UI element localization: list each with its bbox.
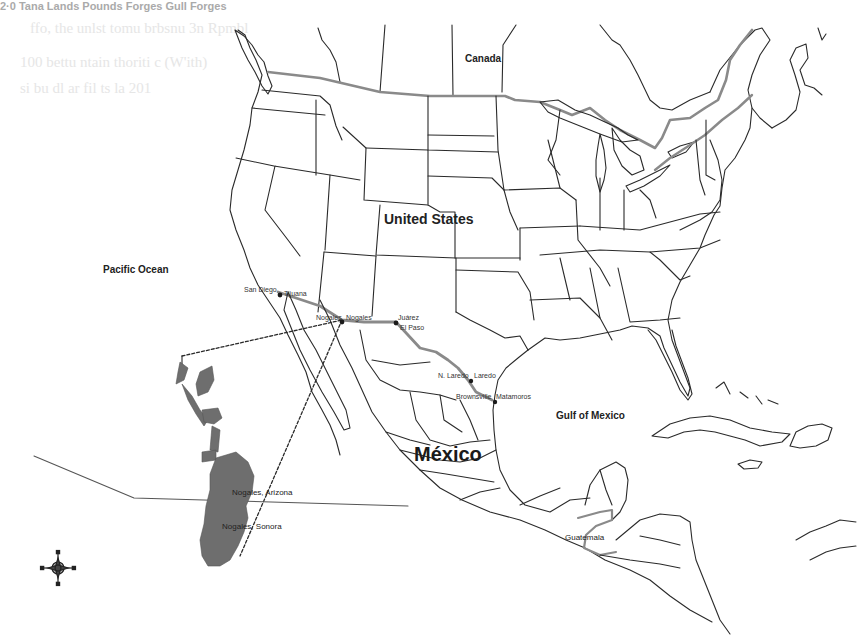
juarez-marker	[394, 321, 399, 326]
jamaica	[738, 460, 762, 469]
label-nogales-sonora: Nogales, Sonora	[222, 522, 282, 531]
texas-border	[456, 312, 528, 350]
lake-erie	[626, 165, 670, 192]
newfoundland	[818, 28, 826, 40]
san-diego-marker	[278, 293, 283, 298]
label-mexico: México	[414, 443, 482, 466]
label-el-paso: El Paso	[400, 324, 424, 331]
hispaniola	[790, 424, 832, 448]
canada-line-3	[502, 25, 516, 92]
label-juarez: Juárez	[398, 314, 419, 321]
baja-california	[284, 292, 350, 430]
label-canada: Canada	[465, 53, 501, 64]
matamoros-marker	[493, 400, 497, 404]
laredo-marker	[469, 379, 473, 383]
label-united-states: United States	[384, 211, 473, 227]
label-guatemala: Guatemala	[565, 533, 604, 542]
label-brownsville: Brownsville	[456, 393, 491, 400]
central-america	[616, 514, 730, 634]
label-matamoros: Matamoros	[496, 393, 531, 400]
cuba	[652, 416, 790, 446]
label-laredo: Laredo	[474, 372, 496, 379]
vancouver-island	[235, 30, 272, 94]
us-canada-border	[268, 30, 752, 148]
florida	[648, 330, 692, 400]
maritimes	[772, 44, 822, 128]
lake-michigan	[596, 134, 606, 192]
pacific-coast	[230, 30, 340, 455]
st-lawrence	[655, 95, 752, 170]
label-nogales-mx: Nogales	[316, 314, 342, 321]
label-san-diego: San Diego	[244, 286, 277, 293]
canada-inner	[380, 25, 385, 92]
north-america-map	[0, 0, 860, 638]
callout-line-dashed-2	[240, 320, 342, 556]
south-america	[796, 520, 856, 560]
label-pacific-ocean: Pacific Ocean	[103, 264, 169, 275]
mexico-coast	[320, 300, 712, 622]
label-nuevo-laredo: N. Laredo	[438, 372, 469, 379]
label-nogales-us: Nogales	[346, 314, 372, 321]
lake-superior	[540, 100, 638, 142]
label-gulf-of-mexico: Gulf of Mexico	[556, 410, 625, 421]
bahamas	[716, 382, 778, 404]
label-tijuana: Tijuana	[284, 290, 307, 297]
label-nogales-arizona: Nogales, Arizona	[232, 488, 292, 497]
gulf-coast	[493, 350, 590, 512]
canada-line-2	[452, 25, 453, 96]
compass-rose-icon	[41, 551, 76, 586]
nogales-urban-area	[176, 362, 254, 566]
canada-west-border	[318, 28, 340, 82]
callout-line-dashed	[182, 320, 342, 356]
hudson-bay	[600, 25, 710, 110]
